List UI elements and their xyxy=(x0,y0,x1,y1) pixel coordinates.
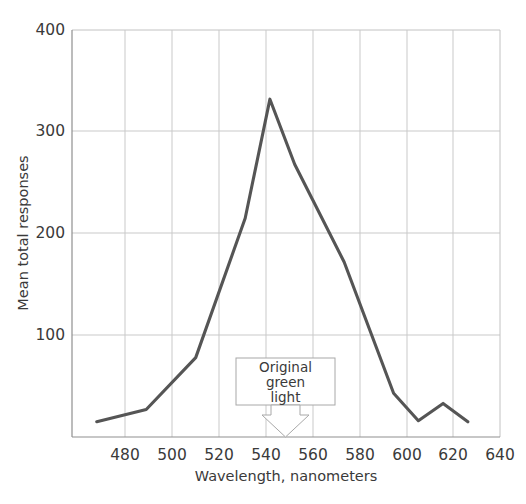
y-axis-title: Mean total responses xyxy=(15,155,31,310)
y-tick-label-400: 400 xyxy=(35,21,65,39)
y-tick-label-300: 300 xyxy=(35,122,65,140)
x-axis-tick-labels: 480 500 520 540 560 580 600 620 640 xyxy=(110,446,515,464)
y-tick-label-200: 200 xyxy=(35,224,65,242)
x-tick-label-540: 540 xyxy=(251,446,281,464)
annotation-line-3: light xyxy=(271,389,301,405)
annotation-line-1: Original xyxy=(259,359,312,375)
x-tick-label-480: 480 xyxy=(110,446,140,464)
x-tick-label-500: 500 xyxy=(157,446,187,464)
x-axis-title: Wavelength, nanometers xyxy=(195,468,378,484)
line-chart: Original green light 400 300 200 100 480… xyxy=(0,0,526,504)
chart-figure: Original green light 400 300 200 100 480… xyxy=(0,0,526,504)
x-tick-label-620: 620 xyxy=(438,446,468,464)
y-tick-label-100: 100 xyxy=(35,326,65,344)
annotation-line-2: green xyxy=(266,374,305,390)
y-axis-tick-labels: 400 300 200 100 xyxy=(35,21,65,344)
x-tick-label-640: 640 xyxy=(485,446,515,464)
x-tick-label-520: 520 xyxy=(204,446,234,464)
x-tick-label-560: 560 xyxy=(298,446,328,464)
x-tick-label-600: 600 xyxy=(392,446,422,464)
x-tick-label-580: 580 xyxy=(345,446,375,464)
